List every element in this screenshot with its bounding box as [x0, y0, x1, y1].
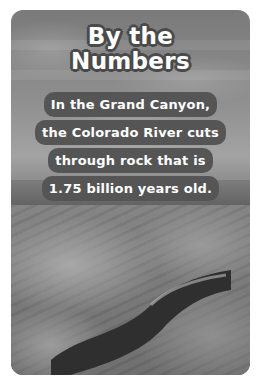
by-the-numbers-card: By the Numbers In the Grand Canyon, the …: [11, 10, 250, 375]
fact-line-1: In the Grand Canyon,: [44, 92, 218, 117]
fact-line-3: through rock that is: [48, 148, 213, 173]
fact-line-4: 1.75 billion years old.: [42, 176, 219, 201]
page-title: By the Numbers: [11, 24, 250, 74]
fact-text-block: In the Grand Canyon, the Colorado River …: [11, 92, 250, 204]
river-photo-element: [51, 265, 231, 375]
fact-line-2: the Colorado River cuts: [35, 120, 226, 145]
title-line-2: Numbers: [11, 49, 250, 74]
title-line-1: By the: [11, 24, 250, 49]
